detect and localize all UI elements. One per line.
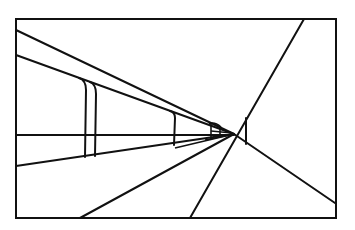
right-diagonal <box>234 134 335 203</box>
upper-beam-bottom <box>16 55 234 134</box>
upper-beam-top <box>16 30 234 134</box>
floor-edge <box>16 134 234 166</box>
pillar-near-2 <box>90 82 96 156</box>
pillar-near-1 <box>79 78 86 157</box>
perspective-drawing <box>0 0 355 230</box>
drawing-canvas <box>0 0 355 230</box>
pillar-mid <box>170 111 175 145</box>
lower-left-diagonal <box>80 134 234 218</box>
